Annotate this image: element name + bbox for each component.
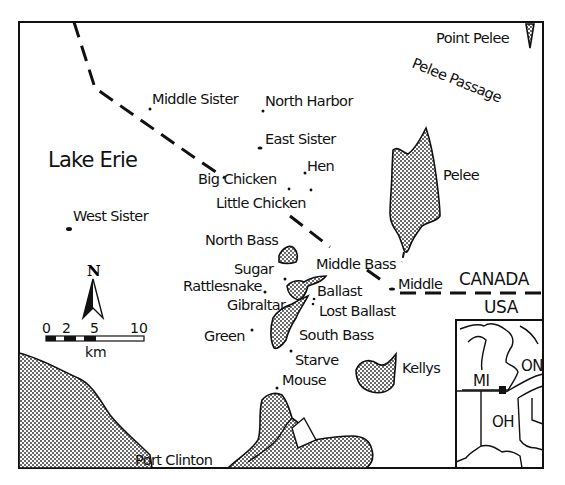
little-chicken-label: Little Chicken <box>216 195 306 211</box>
scale-unit: km <box>85 344 107 360</box>
pelee-island <box>390 128 440 252</box>
hen-label: Hen <box>307 158 334 174</box>
mouse-island <box>276 387 279 390</box>
inset-locator-map: MI ON OH <box>456 320 543 468</box>
green-island <box>251 329 254 332</box>
north-harbor-island <box>262 110 265 113</box>
inset-oh-label: OH <box>492 413 514 431</box>
big-chicken-island <box>288 188 291 191</box>
mouse-label: Mouse <box>282 372 327 388</box>
north-bass-label: North Bass <box>205 232 278 248</box>
kellys-island <box>356 354 396 393</box>
little-chicken-island <box>310 189 313 192</box>
starve-island <box>290 350 293 353</box>
gibraltar-label: Gibraltar <box>227 297 286 313</box>
lake-erie-label: Lake Erie <box>48 148 137 172</box>
lost-ballast-label: Lost Ballast <box>319 303 396 319</box>
middle-label: Middle <box>398 276 443 292</box>
scale-tick-0: 0 <box>42 320 51 336</box>
ballast-label: Ballast <box>317 283 363 299</box>
scale-tick-10: 10 <box>130 320 148 336</box>
ohio-mainland-west <box>19 353 152 468</box>
point-pelee-label: Point Pelee <box>436 30 510 46</box>
sugar-label: Sugar <box>234 261 274 277</box>
big-chicken-label: Big Chicken <box>198 171 277 187</box>
north-label: N <box>87 262 101 280</box>
west-sister-island <box>66 227 72 231</box>
middle-sister-island <box>149 108 152 111</box>
scale-tick-2: 2 <box>62 320 71 336</box>
east-sister-island <box>258 147 263 150</box>
south-bass-label: South Bass <box>299 327 374 343</box>
gibraltar-island <box>288 305 291 308</box>
lake-erie-islands-map: Lake Erie Point Pelee Pelee Passage Midd… <box>0 0 565 485</box>
middle-bass-label: Middle Bass <box>316 256 396 272</box>
middle-sister-label: Middle Sister <box>152 91 239 107</box>
canada-label: CANADA <box>459 269 530 289</box>
north-harbor-label: North Harbor <box>265 93 353 109</box>
pelee-passage-label: Pelee Passage <box>410 55 505 106</box>
ballast-island <box>313 298 316 301</box>
scale-bar: 0 2 5 10 km <box>42 320 148 360</box>
inset-mi-label: MI <box>473 372 489 390</box>
international-border-mid <box>290 216 384 282</box>
north-arrow-icon: N <box>83 262 103 318</box>
lost-ballast-island <box>312 303 315 306</box>
green-label: Green <box>204 328 245 344</box>
international-border-pelee-south <box>402 252 404 262</box>
port-clinton-label: Port Clinton <box>135 452 212 468</box>
inset-on-label: ON <box>521 357 543 375</box>
sugar-island <box>284 278 287 281</box>
rattlesnake-island <box>264 291 267 294</box>
study-area-marker <box>499 386 506 394</box>
kellys-label: Kellys <box>402 360 440 376</box>
usa-label: USA <box>484 297 519 317</box>
pelee-label: Pelee <box>443 167 480 183</box>
middle-island <box>389 288 395 291</box>
point-pelee <box>526 24 534 48</box>
north-bass-island <box>279 246 297 263</box>
starve-label: Starve <box>295 352 339 368</box>
rattlesnake-label: Rattlesnake <box>183 278 262 294</box>
west-sister-label: West Sister <box>73 208 149 224</box>
scale-tick-5: 5 <box>90 320 99 336</box>
east-sister-label: East Sister <box>265 131 336 147</box>
